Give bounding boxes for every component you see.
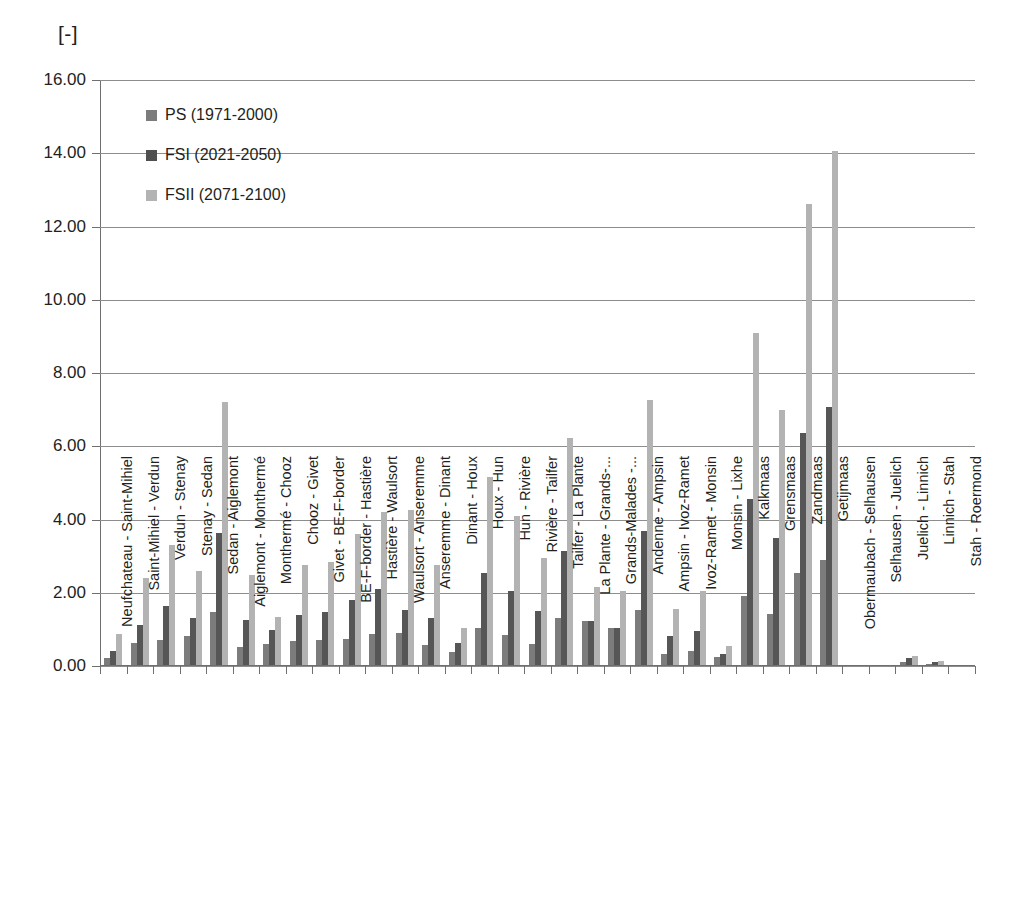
legend-item: FSI (2021-2050) xyxy=(146,135,406,175)
legend-item: FSII (2071-2100) xyxy=(146,175,406,215)
x-axis-category-label: Grands-Malades -... xyxy=(622,456,640,676)
x-axis-tick xyxy=(100,666,101,674)
x-axis-category-label: Hun - Rivière xyxy=(516,456,534,676)
y-axis-tick xyxy=(92,446,100,447)
x-axis-category-label: Monsin - Lixhe xyxy=(728,456,746,676)
y-axis-tick-label: 6.00 xyxy=(14,436,86,456)
x-axis-category-label: Stah - Roermond xyxy=(967,456,985,676)
x-axis-category-label: Chooz - Givet xyxy=(304,456,322,676)
legend-item: PS (1971-2000) xyxy=(146,95,406,135)
x-axis-category-label: Verdun - Stenay xyxy=(171,456,189,676)
y-axis-tick xyxy=(92,227,100,228)
x-axis-category-labels: Neufchateau - Saint-MihielSaint-Mihiel -… xyxy=(100,676,975,901)
x-axis-category-label: Waulsort - Anseremme xyxy=(410,456,428,676)
x-axis-category-label: Saint-Mihiel - Verdun xyxy=(145,456,163,676)
legend-swatch-icon xyxy=(146,110,157,121)
x-axis-category-label: Neufchateau - Saint-Mihiel xyxy=(118,456,136,676)
x-axis-category-label: Sedan - Aiglemont xyxy=(224,456,242,676)
x-axis-category-label: Grensmaas xyxy=(781,456,799,676)
x-axis-category-label: Zandmaas xyxy=(808,456,826,676)
y-axis-tick-labels: 0.002.004.006.008.0010.0012.0014.0016.00 xyxy=(14,80,86,666)
y-axis-tick-label: 2.00 xyxy=(14,583,86,603)
x-axis-category-label: Monthermé - Chooz xyxy=(277,456,295,676)
x-axis-category-label: Kalkmaas xyxy=(755,456,773,676)
bar-chart: [-] 0.002.004.006.008.0010.0012.0014.001… xyxy=(0,0,1010,901)
y-axis-tick xyxy=(92,153,100,154)
y-axis-tick xyxy=(92,520,100,521)
legend-label: PS (1971-2000) xyxy=(165,106,278,124)
x-axis-category-label: Stenay - Sedan xyxy=(198,456,216,676)
y-axis-tick xyxy=(92,593,100,594)
x-axis-category-label: Houx - Hun xyxy=(489,456,507,676)
x-axis-category-label: Ampsin - Ivoz-Ramet xyxy=(675,456,693,676)
x-axis-category-label: Selhausen - Juelich xyxy=(887,456,905,676)
x-axis-category-label: Andenne - Ampsin xyxy=(649,456,667,676)
x-axis-category-label: Givet - BE-F-border xyxy=(330,456,348,676)
y-axis-tick-label: 8.00 xyxy=(14,363,86,383)
x-axis-category-label: Hastière - Waulsort xyxy=(383,456,401,676)
legend-label: FSII (2071-2100) xyxy=(165,186,286,204)
legend-swatch-icon xyxy=(146,150,157,161)
y-axis-tick-label: 10.00 xyxy=(14,290,86,310)
legend-label: FSI (2021-2050) xyxy=(165,146,282,164)
x-axis-category-label: La Plante - Grands-... xyxy=(596,456,614,676)
x-axis-category-label: Anseremme - Dinant xyxy=(436,456,454,676)
x-axis-category-label: Rivière - Tailfer xyxy=(543,456,561,676)
x-axis-category-label: Aiglemont - Monthermé xyxy=(251,456,269,676)
x-axis-category-label: Tailfer - La Plante xyxy=(569,456,587,676)
y-axis-tick xyxy=(92,666,100,667)
y-axis-tick-label: 4.00 xyxy=(14,510,86,530)
y-axis-tick xyxy=(92,373,100,374)
y-axis-unit-label: [-] xyxy=(58,22,78,46)
y-axis-tick-label: 16.00 xyxy=(14,70,86,90)
legend: PS (1971-2000)FSI (2021-2050)FSII (2071-… xyxy=(146,95,406,215)
y-axis-tick xyxy=(92,80,100,81)
y-axis-tick-label: 0.00 xyxy=(14,656,86,676)
y-axis-tick-label: 14.00 xyxy=(14,143,86,163)
x-axis-category-label: BE-F-border - Hastière xyxy=(357,456,375,676)
x-axis-category-label: Obermaubach - Selhausen xyxy=(861,456,879,676)
y-axis-tick-label: 12.00 xyxy=(14,217,86,237)
x-axis-category-label: Juelich - Linnich xyxy=(914,456,932,676)
x-axis-category-label: Linnich - Stah xyxy=(940,456,958,676)
x-axis-category-label: Getijmaas xyxy=(834,456,852,676)
legend-swatch-icon xyxy=(146,190,157,201)
y-axis-tick xyxy=(92,300,100,301)
x-axis-category-label: Dinant - Houx xyxy=(463,456,481,676)
x-axis-category-label: Ivoz-Ramet - Monsin xyxy=(702,456,720,676)
